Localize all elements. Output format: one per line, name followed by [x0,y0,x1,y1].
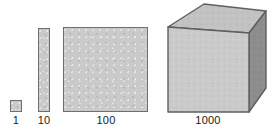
block-flat-100 [63,27,148,112]
label-block-10: 10 [30,113,58,127]
block-rod-10 [38,28,50,112]
block-unit-1 [10,100,22,112]
label-block-1: 1 [2,113,30,127]
cube-front-face [168,27,249,112]
label-block-100: 100 [78,113,134,127]
block-cube-1000 [160,2,272,118]
place-value-blocks-diagram: 1 10 100 1000 [0,0,278,133]
label-block-1000: 1000 [178,113,238,127]
